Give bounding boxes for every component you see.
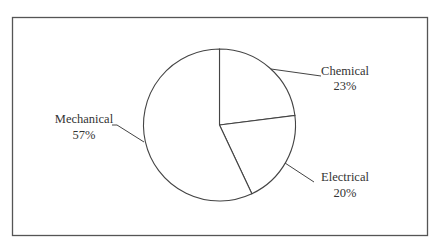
pie-chart: Chemical 23% Electrical 20% Mechanical 5… <box>0 0 439 248</box>
chemical-percent: 23% <box>334 79 357 93</box>
electrical-percent: 20% <box>334 186 357 200</box>
chemical-label: Chemical <box>321 64 369 78</box>
electrical-label: Electrical <box>321 170 369 184</box>
mechanical-label: Mechanical <box>55 112 114 126</box>
mechanical-percent: 57% <box>73 128 96 142</box>
pie-slices <box>143 49 295 201</box>
